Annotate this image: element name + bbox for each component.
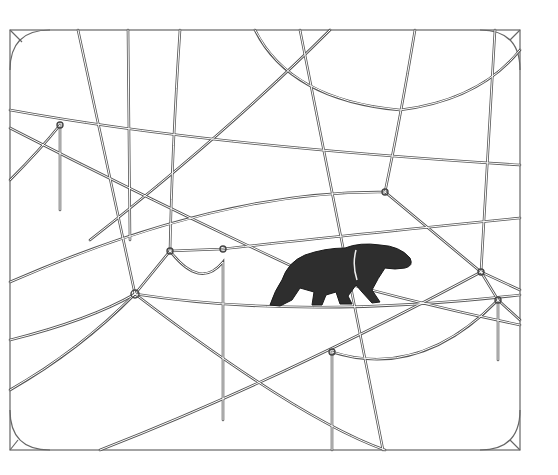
ropes (10, 30, 520, 450)
illustration (0, 0, 558, 475)
tapir (270, 244, 411, 306)
